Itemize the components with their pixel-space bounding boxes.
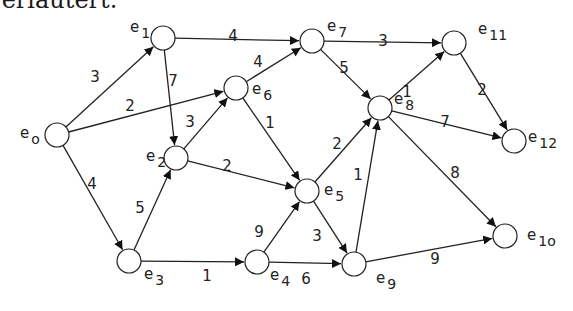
node-e2 [164, 146, 188, 170]
edge-weight-label: 2 [332, 135, 342, 153]
node-e12 [502, 129, 526, 153]
node-e8 [368, 96, 392, 120]
node-e5 [295, 179, 319, 203]
edge-weight-label: 1 [265, 114, 275, 132]
edge-weight-label: 7 [440, 113, 450, 131]
edge-weight-label: 8 [450, 164, 460, 182]
edge-weight-label: 2 [125, 97, 135, 115]
edge-weight-label: 3 [378, 32, 388, 50]
edge-weight-label: 7 [168, 72, 178, 90]
node-e1 [151, 26, 175, 50]
node-label-e10: e1o [527, 226, 556, 249]
edge-e4-e5 [264, 202, 300, 253]
edge-e6-e5 [243, 98, 300, 180]
node-label-e11: e11 [478, 20, 507, 43]
edge-weight-label: 4 [228, 27, 238, 45]
edge-weight-label: 3 [312, 227, 322, 245]
node-label-e4: e4 [270, 266, 290, 289]
node-label-e1: e1 [130, 18, 150, 41]
edge-weight-label: 2 [477, 81, 487, 99]
edge-e5-e8 [315, 118, 372, 182]
edge-e0-e1 [66, 47, 153, 127]
node-label-e7: e7 [327, 17, 347, 40]
edge-e0-e6 [69, 91, 224, 132]
edge-weight-label: 3 [90, 68, 100, 86]
node-label-e3: e3 [144, 265, 164, 288]
node-labels-layer: eoe1e2e3e4e5e6e7e8e9e1oe11e12 [20, 17, 557, 292]
edges-layer [63, 38, 507, 264]
node-e3 [117, 249, 141, 273]
edge-weight-label: 5 [339, 59, 349, 77]
edge-weight-label: 1 [353, 166, 363, 184]
node-e6 [224, 76, 248, 100]
edge-e0-e3 [63, 145, 123, 249]
node-e10 [493, 224, 517, 248]
node-label-e0: eo [20, 124, 40, 147]
node-e0 [45, 123, 69, 147]
node-e4 [245, 250, 269, 274]
edge-weight-label: 4 [253, 53, 263, 71]
node-label-e9: e9 [376, 269, 396, 292]
edge-weight-label: 1 [202, 267, 212, 285]
node-e7 [300, 29, 324, 53]
edge-weight-label: 4 [87, 175, 97, 193]
node-e11 [442, 31, 466, 55]
weighted-digraph: 32447325196234135178192 eoe1e2e3e4e5e6e7… [0, 0, 573, 311]
edge-e1-e2 [164, 50, 174, 145]
edge-weight-label: 2 [222, 157, 232, 175]
edge-weight-label: 9 [254, 223, 264, 241]
edge-weight-label: 3 [185, 113, 195, 131]
edge-weight-label: 9 [430, 250, 440, 268]
edge-e3-e4 [141, 261, 244, 262]
edge-weight-label: 5 [135, 199, 145, 217]
node-label-e2: e2 [146, 147, 166, 170]
nodes-layer [45, 26, 526, 276]
node-label-e5: e5 [324, 181, 344, 204]
edge-e9-e8 [356, 121, 378, 252]
node-label-e12: e12 [528, 128, 557, 151]
edge-e2-e5 [188, 161, 295, 188]
edge-e9-e10 [366, 238, 492, 261]
edge-e4-e9 [269, 262, 341, 264]
node-e9 [342, 252, 366, 276]
node-label-e6: e6 [252, 80, 272, 103]
edge-weight-label: 6 [301, 270, 311, 288]
